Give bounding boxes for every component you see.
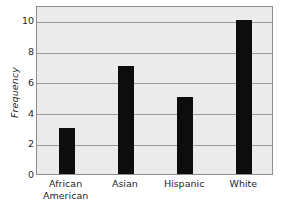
plot-area	[36, 6, 273, 175]
x-axis-tick-label: AfricanAmerican	[36, 178, 95, 201]
y-axis-tick-label: 0	[14, 170, 34, 180]
bar-series	[37, 7, 272, 174]
x-axis-tick-labels: AfricanAmericanAsianHispanicWhite	[36, 178, 273, 210]
x-axis-tick-label-line: Hispanic	[155, 178, 214, 190]
y-axis-tick-label: 10	[14, 16, 34, 26]
bar	[118, 66, 134, 174]
x-axis-tick-label: Asian	[95, 178, 154, 190]
x-axis-tick-label-line: American	[36, 190, 95, 202]
bar	[59, 128, 75, 174]
x-axis-tick-label-line: White	[214, 178, 273, 190]
y-axis-tick-label: 2	[14, 139, 34, 149]
bar-chart-figure: Frequency 0246810 AfricanAmericanAsianHi…	[0, 0, 281, 212]
y-axis-tick-label: 4	[14, 109, 34, 119]
x-axis-tick-label: Hispanic	[155, 178, 214, 190]
y-axis-tick-labels: 0246810	[14, 0, 34, 212]
bar	[236, 20, 252, 174]
bar	[177, 97, 193, 174]
y-axis-tick-label: 6	[14, 78, 34, 88]
y-axis-tick-label: 8	[14, 47, 34, 57]
x-axis-tick-label: White	[214, 178, 273, 190]
x-axis-tick-label-line: Asian	[95, 178, 154, 190]
x-axis-tick-label-line: African	[36, 178, 95, 190]
